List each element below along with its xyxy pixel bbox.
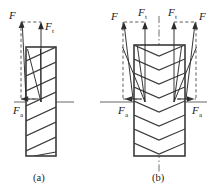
label-Fa-a: F a [12,104,24,119]
label-Fa-b-right: F a [191,104,203,119]
label-Ft-b-right: F t [167,6,177,21]
force-arrow-resultant-b-right [186,22,198,100]
label-Ft-b-left-base: F [137,6,145,18]
label-Fa-a-base: F [12,104,20,116]
label-Ft-b-left-sub: t [145,13,147,21]
herringbone-gear-body [134,45,185,156]
caption-panel-a: (a) [33,172,45,184]
label-Ft-b-right-base: F [167,6,175,18]
label-Ft-a: F t [44,20,54,35]
label-Ft-a-sub: t [52,27,54,35]
label-F-b-right: F [198,10,206,22]
label-Fa-b-right-sub: a [199,111,203,119]
label-F-b-left: F [110,10,118,22]
panel-a: F F t F a (a) [8,9,74,184]
figure-canvas: F F t F a (a) [0,0,212,191]
label-Fa-a-sub: a [20,111,24,119]
label-Fa-b-left: F a [117,104,129,119]
label-F-a: F [8,9,16,21]
label-Fa-b-right-base: F [191,104,199,116]
force-arrow-resultant-a [19,21,26,100]
caption-panel-b: (b) [152,172,165,184]
label-Ft-b-left: F t [137,6,147,21]
label-Ft-b-right-sub: t [175,13,177,21]
label-Fa-b-left-sub: a [125,111,129,119]
force-arrow-resultant-b-left [121,22,133,100]
gear-force-diagram-figure: F F t F a (a) [0,0,212,191]
label-Ft-a-base: F [44,20,52,32]
label-Fa-b-left-base: F [117,104,125,116]
panel-b: F F t F t F F a F a (b) [100,6,207,184]
